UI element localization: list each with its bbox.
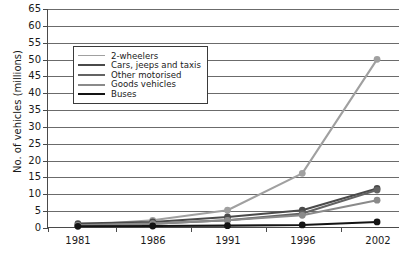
y-axis-tick-label: 60 (28, 21, 41, 31)
x-axis-tick (116, 227, 117, 232)
x-axis-tick (48, 227, 49, 232)
y-axis-tick-label: 30 (28, 122, 41, 132)
y-axis-tick-label: 0 (35, 223, 41, 233)
legend-swatch (78, 74, 105, 76)
data-point (299, 212, 306, 219)
y-axis-title: No. of vehicles (millions) (12, 37, 23, 187)
legend-label: Goods vehicles (111, 80, 176, 89)
y-axis-tick-label: 5 (35, 206, 41, 216)
x-axis-tick-label: 1986 (140, 236, 165, 246)
y-axis-tick-label: 25 (28, 139, 41, 149)
x-axis-tick-label: 1996 (290, 236, 315, 246)
data-point (299, 170, 306, 177)
data-point (374, 56, 381, 63)
y-axis-tick-label: 50 (28, 55, 41, 65)
y-axis-tick-label: 10 (28, 189, 41, 199)
data-point (149, 223, 156, 230)
data-point (374, 219, 381, 226)
legend-label: Buses (111, 90, 137, 99)
data-point (224, 207, 231, 214)
y-axis-tick-label: 45 (28, 71, 41, 81)
chart-figure: No. of vehicles (millions) 0510152025303… (0, 0, 412, 253)
y-axis-tick-label: 35 (28, 105, 41, 115)
x-axis-tick (341, 227, 342, 232)
y-axis-tick-label: 65 (28, 4, 41, 14)
x-axis-tick (266, 227, 267, 232)
chart-legend: 2-wheelersCars, jeeps and taxisOther mot… (73, 46, 208, 104)
x-axis-tick (191, 227, 192, 232)
x-axis-tick-label: 1981 (65, 236, 90, 246)
y-axis-tick-label: 20 (28, 156, 41, 166)
data-point (374, 187, 381, 194)
data-point (299, 222, 306, 229)
y-axis-tick-label: 40 (28, 88, 41, 98)
legend-label: 2-wheelers (111, 52, 158, 61)
legend-swatch (78, 64, 105, 66)
legend-swatch (78, 55, 105, 56)
data-point (75, 223, 82, 230)
legend-swatch (78, 93, 105, 95)
legend-label: Other motorised (111, 71, 182, 80)
legend-swatch (78, 84, 105, 86)
legend-item: Cars, jeeps and taxis (78, 61, 201, 71)
y-axis-tick-label: 15 (28, 172, 41, 182)
legend-item: Buses (78, 89, 201, 99)
legend-item: Goods vehicles (78, 80, 201, 90)
legend-label: Cars, jeeps and taxis (111, 61, 201, 70)
x-axis-tick-label: 2002 (365, 236, 390, 246)
data-point (224, 222, 231, 229)
y-axis-tick-label: 55 (28, 38, 41, 48)
x-axis-tick-label: 1991 (215, 236, 240, 246)
plot-area: 05101520253035404550556065 1981198619911… (47, 9, 399, 228)
data-point (374, 197, 381, 204)
series-lines (48, 9, 399, 227)
